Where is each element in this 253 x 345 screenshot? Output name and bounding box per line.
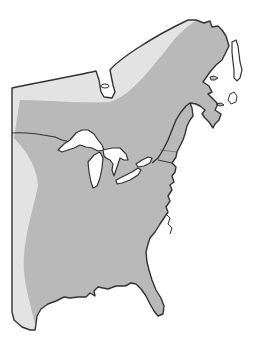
anticosti-island	[210, 76, 218, 80]
newfoundland	[232, 40, 242, 81]
chesapeake-bay	[166, 214, 172, 234]
cape-breton	[228, 92, 237, 104]
island-james-bay	[101, 84, 109, 88]
range-map	[0, 0, 253, 345]
